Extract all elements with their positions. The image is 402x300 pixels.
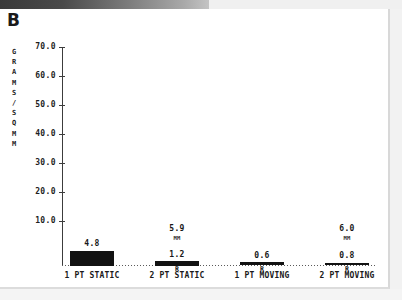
page-edge-bottom xyxy=(0,289,402,300)
y-tick-label: 60.0 xyxy=(16,72,56,80)
y-tick-mark xyxy=(59,47,65,48)
y-tick-mark xyxy=(59,163,65,164)
y-tick-label: 20.0 xyxy=(16,188,56,196)
y-tick-row: 50.0 xyxy=(0,101,56,109)
plot-area: 70.0 60.0 50.0 40.0 30.0 20.0 10.0 4.8 xyxy=(0,9,388,287)
y-tick-row: 10.0 xyxy=(0,217,56,225)
bar-secondary-unit: MM xyxy=(155,235,199,241)
y-tick-label: 40.0 xyxy=(16,130,56,138)
bar-value-label: 0.8 xyxy=(325,252,369,260)
bar-value-label: 4.8 xyxy=(70,240,114,248)
y-tick-label: 50.0 xyxy=(16,101,56,109)
chart-screenshot: B G R A M S / S Q M M 70.0 60.0 50.0 40.… xyxy=(0,0,402,300)
scan-band-right xyxy=(209,0,402,9)
category-label: 2 PT MOVING xyxy=(307,271,387,280)
bar xyxy=(70,251,114,266)
bar-value-label: 0.6 xyxy=(240,252,284,260)
y-tick-mark xyxy=(59,76,65,77)
category-label: 2 PT STATIC xyxy=(137,271,217,280)
y-tick-label: 30.0 xyxy=(16,159,56,167)
category-label: 1 PT STATIC xyxy=(52,271,132,280)
category-label: 1 PT MOVING xyxy=(222,271,302,280)
y-tick-row: 60.0 xyxy=(0,72,56,80)
y-tick-label: 70.0 xyxy=(16,43,56,51)
bar-secondary-unit: MM xyxy=(325,235,369,241)
y-tick-row: 30.0 xyxy=(0,159,56,167)
bar-secondary-label: 5.9 xyxy=(155,225,199,233)
y-tick-mark xyxy=(59,134,65,135)
y-tick-label: 10.0 xyxy=(16,217,56,225)
y-tick-row: 40.0 xyxy=(0,130,56,138)
bar-secondary-label: 6.0 xyxy=(325,225,369,233)
y-axis-line xyxy=(62,47,63,266)
y-tick-row: 70.0 xyxy=(0,43,56,51)
y-tick-mark xyxy=(59,192,65,193)
y-tick-row: 20.0 xyxy=(0,188,56,196)
page-edge-right xyxy=(390,9,402,291)
bar-value-label: 1.2 xyxy=(155,251,199,259)
scan-gradient-band xyxy=(0,0,209,9)
y-tick-mark xyxy=(59,221,65,222)
y-tick-mark xyxy=(59,105,65,106)
